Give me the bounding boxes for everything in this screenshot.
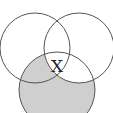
venn-diagram: X bbox=[0, 0, 113, 113]
region-label-x: X bbox=[51, 56, 64, 76]
